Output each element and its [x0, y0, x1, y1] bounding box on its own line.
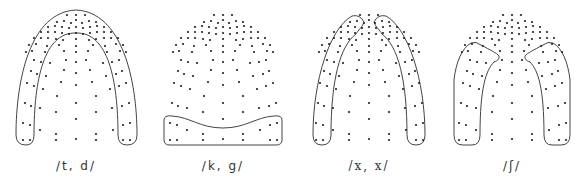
- electrode-dot: [348, 133, 350, 135]
- electrode-dot: [565, 139, 567, 141]
- electrode-dot: [471, 43, 473, 45]
- electrode-dot: [252, 75, 254, 77]
- electrode-dot: [315, 139, 317, 141]
- electrode-dot: [547, 107, 549, 109]
- electrode-dot: [180, 85, 182, 87]
- electrode-dot: [40, 31, 42, 33]
- electrode-dot: [262, 73, 264, 75]
- electrode-dot: [476, 61, 478, 63]
- electrode-dot: [256, 88, 258, 90]
- electrode-dot: [96, 25, 98, 27]
- electrode-dot: [319, 82, 321, 84]
- electrode-dot: [557, 70, 559, 72]
- electrode-dot: [382, 26, 384, 28]
- electrode-dot: [186, 129, 188, 131]
- electrode-dot: [396, 37, 398, 39]
- electrode-dot: [39, 129, 41, 131]
- electrode-dot: [201, 25, 203, 27]
- electrode-dot: [375, 27, 377, 29]
- electrode-dot: [172, 51, 174, 53]
- electrode-dot: [88, 39, 90, 41]
- electrode-dot: [414, 105, 416, 107]
- electrode-dot: [203, 95, 205, 97]
- electrode-dot: [356, 20, 358, 22]
- electrode-dot: [222, 61, 224, 63]
- electrode-dot: [125, 51, 127, 53]
- electrode-dot: [506, 22, 508, 24]
- electrode-dot: [531, 139, 533, 141]
- electrode-dot: [368, 84, 370, 86]
- electrode-dot: [388, 21, 390, 23]
- electrode-dot: [95, 139, 97, 141]
- electrode-dot: [414, 70, 416, 72]
- electrode-dot: [348, 139, 350, 141]
- electrode-dot: [250, 37, 252, 39]
- electrode-dot: [75, 45, 77, 47]
- electrode-dot: [499, 20, 501, 22]
- electrode-dot: [177, 70, 179, 72]
- electrode-dot: [209, 39, 211, 41]
- electrode-dot: [405, 129, 407, 131]
- electrode-dot: [183, 73, 185, 75]
- electrode-dot: [363, 22, 365, 24]
- electrode-dot: [527, 81, 529, 83]
- electrode-dot: [504, 33, 506, 35]
- electrode-dot: [222, 138, 224, 140]
- electrode-dot: [85, 59, 87, 61]
- electrode-dot: [109, 88, 111, 90]
- palate-esh: [454, 14, 570, 145]
- electrode-dot: [388, 38, 390, 40]
- electrode-dot: [222, 72, 224, 74]
- electrode-dot: [95, 111, 97, 113]
- electrode-dot: [368, 38, 370, 40]
- electrode-dot: [388, 139, 390, 141]
- electrode-dot: [318, 51, 320, 53]
- electrode-dot: [380, 50, 382, 52]
- electrode-dot: [55, 38, 57, 40]
- electrode-dot: [368, 102, 370, 104]
- electrode-dot: [229, 27, 231, 29]
- electrode-dot: [269, 124, 271, 126]
- electrode-dot: [264, 37, 266, 39]
- electrode-dot: [22, 139, 24, 141]
- electrode-dot: [333, 31, 335, 33]
- electrode-dot: [532, 25, 534, 27]
- electrode-dot: [210, 20, 212, 22]
- electrode-dot: [511, 118, 513, 120]
- electrode-dot: [96, 31, 98, 33]
- electrode-dot: [326, 85, 328, 87]
- palate-x-x: [313, 14, 425, 145]
- electrode-dot: [381, 20, 383, 22]
- electrode-dot: [228, 22, 230, 24]
- electrode-dot: [222, 32, 224, 34]
- electrode-dot: [177, 105, 179, 107]
- electrode-dot: [191, 51, 193, 53]
- electrode-dot: [368, 72, 370, 74]
- electrode-dot: [368, 61, 370, 63]
- electrode-dot: [207, 81, 209, 83]
- electrode-dot: [525, 26, 527, 28]
- electrode-dot: [490, 31, 492, 33]
- electrode-dot: [554, 85, 556, 87]
- electrode-dot: [92, 44, 94, 46]
- electrode-dot: [193, 45, 195, 47]
- electrode-dot: [354, 26, 356, 28]
- electrode-dot: [482, 45, 484, 47]
- electrode-dot: [103, 31, 105, 33]
- electrode-dot: [242, 133, 244, 135]
- electrode-dot: [410, 37, 412, 39]
- electrode-dot: [118, 85, 120, 87]
- electrode-dot: [269, 139, 271, 141]
- electrode-dot: [55, 133, 57, 135]
- electrode-dot: [39, 107, 41, 109]
- electrode-dot: [35, 43, 37, 45]
- electrode-dot: [125, 82, 127, 84]
- electrode-dot: [532, 31, 534, 33]
- electrode-dot: [75, 32, 77, 34]
- electrode-dot: [546, 37, 548, 39]
- electrode-dot: [483, 37, 485, 39]
- electrode-dot: [266, 50, 268, 52]
- electrode-dot: [340, 26, 342, 28]
- electrode-dot: [95, 38, 97, 40]
- electrode-dot: [89, 69, 91, 71]
